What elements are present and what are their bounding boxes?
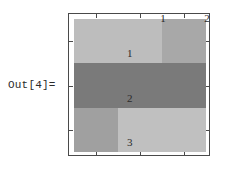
tick-mark-top-1 bbox=[96, 14, 97, 18]
output-prompt-label: Out[4]= bbox=[8, 79, 56, 91]
matrix-plot: 123123123123 bbox=[68, 13, 210, 156]
tick-label-left-3: 3 bbox=[127, 136, 133, 147]
matrix-cell-r1c1 bbox=[74, 19, 118, 63]
matrix-cell-r3c3 bbox=[162, 108, 206, 152]
tick-label-bottom-1: 1 bbox=[160, 173, 166, 175]
tick-label-left-2: 2 bbox=[127, 92, 133, 103]
tick-mark-top-3 bbox=[184, 14, 185, 18]
tick-label-left-1: 1 bbox=[127, 48, 133, 59]
matrix-cell-r2c3 bbox=[162, 63, 206, 107]
notebook-output-cell: Out[4]= 123123123123 bbox=[0, 0, 229, 175]
tick-label-top-2: 2 bbox=[204, 13, 210, 24]
matrix-cell-r3c1 bbox=[74, 108, 118, 152]
tick-label-top-1: 1 bbox=[160, 13, 166, 24]
tick-mark-bottom-3 bbox=[184, 152, 185, 156]
matrix-grid bbox=[74, 19, 206, 152]
tick-mark-left-3 bbox=[69, 130, 73, 131]
matrix-cell-r3c2 bbox=[118, 108, 162, 152]
tick-mark-top-2 bbox=[140, 14, 141, 18]
matrix-cell-r1c2 bbox=[118, 19, 162, 63]
tick-mark-right-3 bbox=[206, 130, 210, 131]
plot-frame bbox=[68, 13, 210, 156]
matrix-cell-r2c1 bbox=[74, 63, 118, 107]
tick-mark-left-2 bbox=[69, 86, 73, 87]
tick-mark-right-2 bbox=[206, 86, 210, 87]
tick-mark-left-1 bbox=[69, 41, 73, 42]
tick-mark-right-1 bbox=[206, 41, 210, 42]
tick-mark-bottom-1 bbox=[96, 152, 97, 156]
matrix-cell-r2c2 bbox=[118, 63, 162, 107]
tick-label-bottom-2: 2 bbox=[204, 173, 210, 175]
matrix-cell-r1c3 bbox=[162, 19, 206, 63]
tick-mark-bottom-2 bbox=[140, 152, 141, 156]
